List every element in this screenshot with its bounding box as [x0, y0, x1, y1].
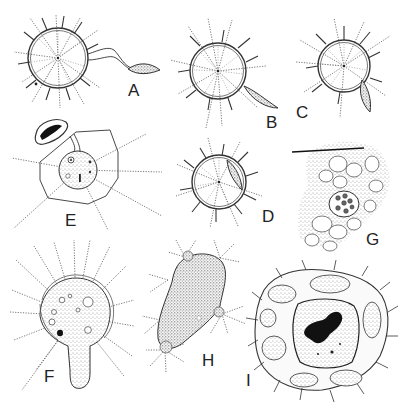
inner-radial-lines: [321, 43, 367, 86]
panel-label-h: H: [202, 351, 214, 370]
fusiform-body: [128, 64, 160, 74]
stippled-cell: [59, 151, 97, 189]
filament: [88, 48, 132, 68]
cell-rays: [170, 18, 266, 128]
dark-inclusion: [57, 330, 63, 337]
panel-f: F: [10, 240, 134, 390]
panel-label-i: I: [246, 371, 251, 390]
panel-label-c: C: [296, 103, 308, 122]
panel-label-f: F: [44, 367, 54, 386]
nucleus-dot: [217, 70, 220, 73]
nucleus-dot: [57, 57, 59, 59]
panel-c: C: [296, 18, 390, 122]
panel-label-b: B: [266, 113, 277, 132]
panel-e: E: [12, 120, 162, 230]
nucleus-dot: [218, 181, 221, 184]
panel-label-a: A: [128, 81, 140, 100]
illustration-plate: A: [0, 0, 403, 406]
panel-label-e: E: [65, 211, 76, 230]
panel-b: B: [170, 18, 278, 132]
panel-d: D: [176, 138, 274, 228]
cell-rays: [296, 18, 390, 118]
elongate-body: [158, 254, 226, 348]
panel-h: H: [142, 240, 246, 372]
inner-radial-lines: [196, 158, 228, 204]
nucleus-dot: [343, 65, 346, 68]
panel-i: I: [246, 260, 398, 402]
fusiform-body: [360, 80, 370, 112]
panel-label-g: G: [366, 230, 379, 249]
panel-g: G: [292, 142, 389, 251]
panel-label-d: D: [262, 207, 274, 226]
fusiform-body: [244, 86, 278, 108]
panel-a: A: [14, 14, 160, 108]
